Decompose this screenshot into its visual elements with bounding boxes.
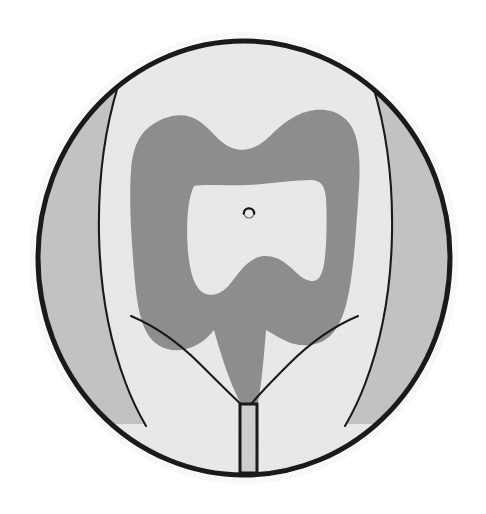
anatomy-illustration-canvas xyxy=(0,0,486,514)
anatomy-figure: Abdominal wall outline Abdominal cavity … xyxy=(0,0,486,514)
paper-grain xyxy=(40,43,448,473)
